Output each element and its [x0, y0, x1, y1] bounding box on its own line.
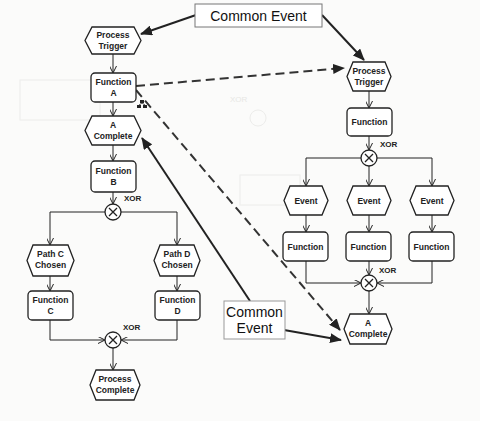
svg-text:Event: Event	[420, 196, 443, 206]
common-event-link-bottom-right	[284, 330, 341, 340]
svg-text:Function: Function	[414, 242, 450, 252]
svg-text:D: D	[174, 306, 180, 316]
right-process-trigger-event: Process Trigger	[347, 62, 391, 91]
right-a-complete-event: A Complete	[344, 314, 392, 344]
svg-text:Chosen: Chosen	[161, 260, 192, 270]
svg-text:A: A	[110, 120, 116, 130]
svg-text:A: A	[110, 88, 116, 98]
svg-text:Event: Event	[237, 320, 273, 336]
path-d-chosen-event: Path D Chosen	[154, 245, 200, 276]
right-event-1: Event	[284, 186, 328, 215]
svg-text:Function: Function	[352, 117, 388, 127]
svg-text:Chosen: Chosen	[35, 260, 66, 270]
svg-text:Function: Function	[96, 166, 132, 176]
svg-text:Event: Event	[357, 196, 380, 206]
svg-text:XOR: XOR	[380, 140, 398, 149]
xor-split-right: XOR	[361, 140, 398, 166]
svg-text:XOR: XOR	[379, 266, 397, 275]
svg-text:Complete: Complete	[96, 385, 135, 395]
function-a: Function A	[91, 73, 136, 102]
path-c-chosen-event: Path C Chosen	[27, 245, 74, 276]
right-function-3: Function	[409, 232, 454, 261]
svg-text:Path C: Path C	[37, 249, 64, 259]
svg-text:Process: Process	[96, 30, 129, 40]
svg-text:Trigger: Trigger	[355, 77, 385, 87]
function-d: Function D	[155, 291, 200, 320]
svg-text:Event: Event	[294, 196, 317, 206]
svg-text:Process: Process	[98, 374, 131, 384]
dashed-link-function-a-to-trigger	[136, 68, 344, 86]
svg-text:XOR: XOR	[123, 323, 141, 332]
svg-text:Trigger: Trigger	[99, 41, 129, 51]
svg-text:B: B	[110, 177, 116, 187]
svg-text:Common: Common	[226, 304, 283, 320]
function-b: Function B	[91, 161, 136, 192]
svg-text:Function: Function	[288, 242, 324, 252]
svg-text:Function: Function	[96, 77, 132, 87]
right-event-3: Event	[410, 186, 454, 215]
svg-text:Complete: Complete	[349, 329, 388, 339]
svg-text:Process: Process	[352, 66, 385, 76]
svg-text:Function: Function	[33, 295, 69, 305]
common-event-label-top: Common Event	[195, 4, 322, 27]
svg-text:Path D: Path D	[164, 249, 191, 259]
xor-split-left: XOR	[105, 194, 142, 220]
svg-text:XOR: XOR	[124, 194, 142, 203]
svg-text:Function: Function	[160, 295, 196, 305]
function-c: Function C	[28, 291, 73, 320]
epc-diagram: XOR	[0, 0, 480, 421]
common-event-link-bottom-left	[142, 138, 250, 301]
svg-text:C: C	[47, 306, 53, 316]
a-complete-event: A Complete	[85, 116, 141, 145]
common-event-link-top-left	[141, 15, 196, 34]
process-complete-event: Process Complete	[90, 370, 140, 400]
right-function: Function	[347, 108, 392, 136]
svg-text:A: A	[365, 318, 371, 328]
common-event-link-top-right	[322, 15, 364, 60]
svg-text:XOR: XOR	[230, 95, 248, 104]
svg-text:Common Event: Common Event	[210, 8, 307, 24]
xor-join-right: XOR	[361, 266, 397, 291]
right-function-1: Function	[283, 232, 328, 261]
svg-text:Complete: Complete	[94, 131, 133, 141]
right-event-2: Event	[347, 186, 391, 215]
background-ghost: XOR	[20, 80, 300, 205]
xor-join-left: XOR	[105, 323, 141, 348]
left-process-trigger-event: Process Trigger	[85, 27, 141, 54]
common-event-label-bottom: Common Event	[224, 301, 285, 339]
svg-text:Function: Function	[351, 242, 387, 252]
right-function-2: Function	[346, 232, 391, 261]
